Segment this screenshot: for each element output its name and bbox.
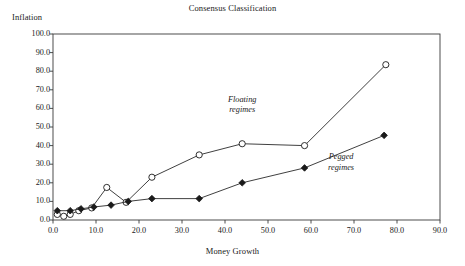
data-point-marker: [381, 132, 388, 139]
data-point-marker: [104, 184, 110, 190]
data-point-marker: [239, 141, 245, 147]
plot-area: [0, 0, 465, 266]
data-point-marker: [196, 152, 202, 158]
data-point-marker: [239, 180, 246, 187]
chart-container: Consensus Classification Inflation Money…: [0, 0, 465, 266]
data-point-marker: [108, 202, 115, 209]
data-point-marker: [61, 213, 67, 219]
data-point-marker: [301, 143, 307, 149]
series-line: [57, 135, 384, 210]
data-point-marker: [383, 62, 389, 68]
plot-frame: [53, 34, 440, 220]
data-point-marker: [149, 174, 155, 180]
series-line: [57, 65, 386, 217]
data-point-marker: [301, 165, 308, 172]
data-point-marker: [196, 195, 203, 202]
data-point-marker: [149, 195, 156, 202]
